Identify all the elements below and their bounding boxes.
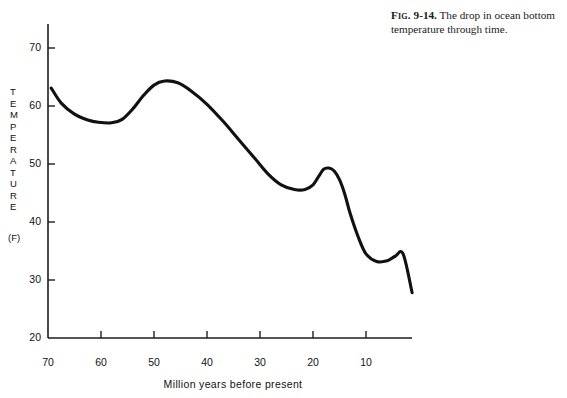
temperature-curve [51,81,412,293]
x-axis-ticks [101,331,366,338]
plot-canvas [0,0,567,398]
axis-lines [48,24,412,338]
y-axis-ticks [48,48,55,280]
temperature-vs-time-chart: TEMPERATURE (F) 203040506070 70605040302… [0,0,567,398]
